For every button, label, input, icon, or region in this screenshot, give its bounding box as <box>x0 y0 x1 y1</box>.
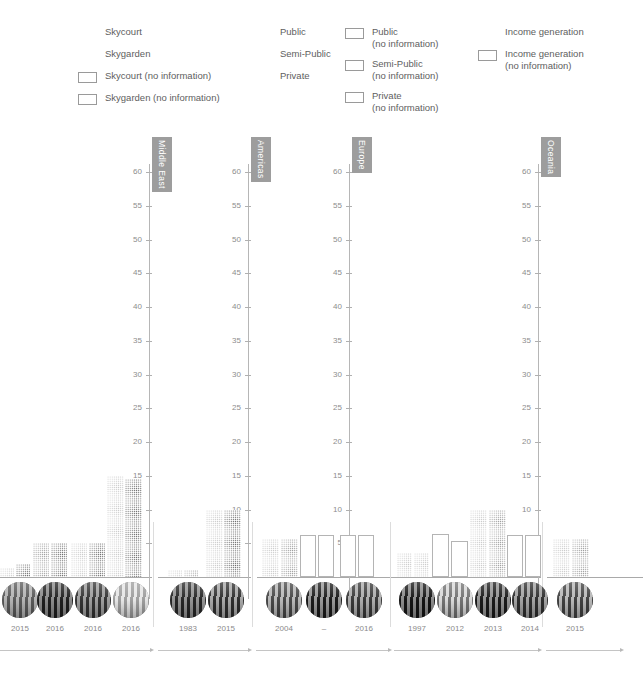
y-axis-tick-label: 60 <box>509 167 531 176</box>
building-photo[interactable] <box>2 582 38 618</box>
y-axis-tick <box>346 273 352 274</box>
timeline-arrow-icon <box>388 648 392 652</box>
legend-item-label: Semi-Public (no information) <box>372 58 439 81</box>
empty-box-icon <box>345 28 364 39</box>
skycourt-pattern-icon <box>78 28 97 39</box>
legend-item-label: Skygarden (no information) <box>105 92 220 104</box>
y-axis-tick <box>535 273 541 274</box>
building-photo-image <box>208 582 244 618</box>
axis-baseline <box>390 577 541 578</box>
bar <box>318 535 334 577</box>
legend-item[interactable]: Skycourt <box>78 26 248 39</box>
empty-box-icon <box>478 50 497 61</box>
bar <box>125 479 142 577</box>
bar <box>340 535 356 577</box>
year-label: 2015 <box>204 624 248 633</box>
legend-item[interactable]: Income generation <box>478 26 638 39</box>
legend-item[interactable]: Semi-Public (no information) <box>345 58 473 81</box>
building-photo[interactable] <box>113 582 149 618</box>
legend-item-label: Income generation <box>505 26 584 38</box>
y-axis-tick <box>346 240 352 241</box>
building-photo[interactable] <box>346 582 382 618</box>
y-axis-tick <box>245 442 251 443</box>
y-axis-tick-label: 50 <box>120 235 142 244</box>
y-axis-tick-label: 40 <box>219 302 241 311</box>
y-axis-tick-label: 15 <box>320 471 342 480</box>
y-axis-tick-label: 35 <box>120 336 142 345</box>
y-axis-tick <box>535 442 541 443</box>
building-photo-image <box>113 582 149 618</box>
y-axis-tick <box>245 476 251 477</box>
building-photo[interactable] <box>208 582 244 618</box>
axis-baseline <box>0 577 152 578</box>
legend-item[interactable]: Income generation (no information) <box>478 48 638 71</box>
bar <box>300 535 316 577</box>
legend-item[interactable]: Semi-Public <box>253 48 341 61</box>
y-axis-tick-label: 25 <box>120 403 142 412</box>
building-photo[interactable] <box>437 582 473 618</box>
y-axis-tick-label: 15 <box>509 471 531 480</box>
legend-item-label: Public <box>280 26 306 38</box>
building-photo[interactable] <box>399 582 435 618</box>
panel-title-americas: Americas <box>251 137 271 182</box>
y-axis-tick-label: 25 <box>509 403 531 412</box>
y-axis-tick <box>346 442 352 443</box>
building-photo-image <box>399 582 435 618</box>
bar <box>572 539 589 577</box>
bar <box>184 570 198 577</box>
building-photo[interactable] <box>170 582 206 618</box>
legend-item[interactable]: Skygarden <box>78 48 248 61</box>
y-axis-tick-label: 45 <box>509 268 531 277</box>
bar <box>489 510 506 578</box>
bar <box>89 543 105 577</box>
building-photo[interactable] <box>512 582 548 618</box>
y-axis-tick-label: 20 <box>120 437 142 446</box>
timeline-axis <box>546 650 620 651</box>
legend-column-1: PublicSemi-PublicPrivate <box>253 26 341 92</box>
building-photo[interactable] <box>75 582 111 618</box>
legend-item[interactable]: Skygarden (no information) <box>78 92 248 105</box>
panel-divider <box>390 522 391 627</box>
legend-item[interactable]: Skycourt (no information) <box>78 70 248 83</box>
y-axis-tick <box>346 375 352 376</box>
y-axis-tick-label: 35 <box>509 336 531 345</box>
legend-item-label: Skycourt <box>105 26 142 38</box>
y-axis-tick <box>535 476 541 477</box>
chart-area: 51015202530354045505560Middle East510152… <box>0 122 643 679</box>
building-photo[interactable] <box>557 582 593 618</box>
year-label: 2016 <box>342 624 386 633</box>
legend-item[interactable]: Public (no information) <box>345 26 473 49</box>
building-photo[interactable] <box>306 582 342 618</box>
panel-divider <box>252 522 253 627</box>
legend-item[interactable]: Private <box>253 70 341 83</box>
bar <box>507 535 523 577</box>
building-photo[interactable] <box>266 582 302 618</box>
building-photo[interactable] <box>37 582 73 618</box>
bar <box>33 543 49 577</box>
y-axis-tick <box>346 206 352 207</box>
y-axis-tick <box>146 476 152 477</box>
y-axis-tick <box>245 307 251 308</box>
y-axis-tick-label: 50 <box>219 235 241 244</box>
income-pattern-icon <box>478 28 497 39</box>
y-axis-tick-label: 20 <box>320 437 342 446</box>
y-axis-tick-label: 35 <box>320 336 342 345</box>
bar <box>206 510 223 578</box>
y-axis-tick <box>146 307 152 308</box>
legend-column-2: Public (no information)Semi-Public (no i… <box>345 26 473 122</box>
axis-baseline <box>257 577 390 578</box>
timeline-arrow-icon <box>248 648 252 652</box>
bar <box>0 568 14 577</box>
timeline-arrow-icon <box>538 648 542 652</box>
building-photo[interactable] <box>475 582 511 618</box>
legend-item-label: Income generation (no information) <box>505 48 584 71</box>
y-axis-tick <box>346 476 352 477</box>
bar <box>168 570 182 577</box>
building-photo-image <box>2 582 38 618</box>
legend-item[interactable]: Public <box>253 26 341 39</box>
legend-item[interactable]: Private (no information) <box>345 90 473 113</box>
y-axis-tick-label: 20 <box>509 437 531 446</box>
legend-item-label: Private <box>280 70 310 82</box>
y-axis-tick-label: 30 <box>509 370 531 379</box>
legend-item-label: Semi-Public <box>280 48 331 60</box>
